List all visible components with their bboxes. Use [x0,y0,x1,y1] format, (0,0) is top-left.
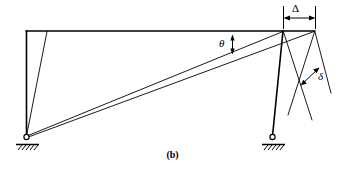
left-pinned-support [16,134,39,150]
right-brace-outer-member [288,32,315,115]
right-support-pin-icon [270,134,275,139]
right-pinned-support [262,134,285,150]
sway-dimension-annotation [284,6,316,29]
sway-displacement-label: Δ [292,3,299,14]
right-brace-inner-member [284,32,313,120]
sway-arrow-right-icon [309,16,316,21]
theta-arrow-up-icon [230,35,234,41]
frame-members [26,31,331,138]
left-support-pin-icon [24,134,29,139]
elongation-label: δ [318,71,323,82]
figure-caption: (b) [0,150,345,160]
long-diagonal-lower-member [27,32,314,138]
rotation-angle-label: θ [219,38,224,49]
long-diagonal-upper-member [27,32,283,137]
frame-diagram [0,0,345,170]
sway-arrow-left-icon [284,16,291,21]
right-column-member [273,31,284,136]
figure-container: Δ θ δ (b) [0,0,345,170]
left-brace-member [27,32,48,137]
right-brace-far-member [315,32,331,93]
elongation-annotation [301,68,320,86]
